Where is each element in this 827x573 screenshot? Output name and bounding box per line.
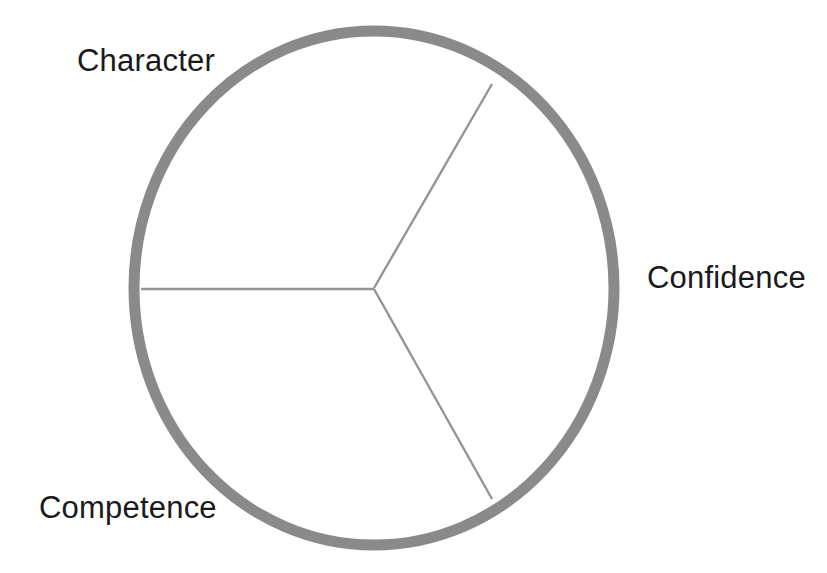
- diagram-canvas: Character Confidence Competence: [0, 0, 827, 573]
- divider-line-lower-right: [374, 289, 492, 499]
- slice-label-character: Character: [77, 45, 215, 76]
- slice-label-confidence: Confidence: [647, 262, 806, 293]
- divider-line-upper-right: [374, 84, 492, 288]
- slice-label-competence: Competence: [39, 492, 217, 523]
